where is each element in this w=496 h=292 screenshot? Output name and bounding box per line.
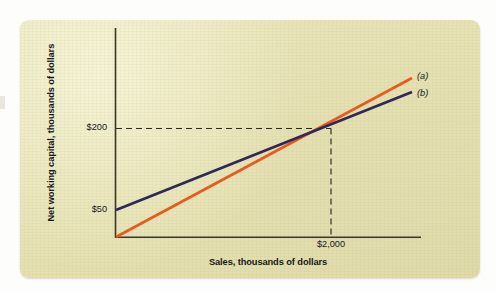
figure-page: Net working capital, thousands of dollar…	[0, 0, 496, 292]
y-axis-title: Net working capital, thousands of dollar…	[47, 33, 56, 233]
x-axis-title: Sales, thousands of dollars	[115, 258, 421, 267]
x-tick-label-2000: $2,000	[296, 240, 366, 249]
y-tick-label-50: $50	[63, 205, 107, 214]
series-label-a: (a)	[417, 72, 428, 81]
series-line-a	[116, 78, 412, 237]
series-line-b	[116, 92, 412, 210]
series-label-b: (b)	[417, 89, 428, 98]
y-tick-label-200: $200	[63, 123, 107, 132]
chart-plot-area	[0, 0, 496, 292]
